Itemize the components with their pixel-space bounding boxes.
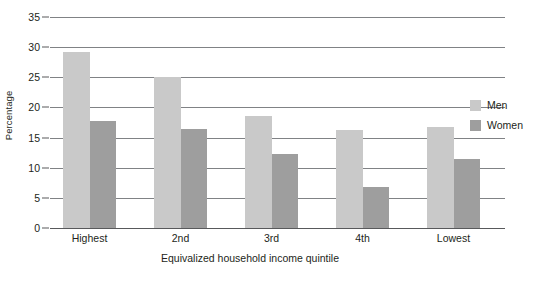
y-axis-title-text: Percentage	[4, 90, 15, 140]
bar-men-2nd	[154, 77, 181, 228]
legend-swatch-women	[470, 120, 481, 131]
y-axis-tick-mark	[42, 107, 49, 108]
x-axis-tick-label: 2nd	[172, 232, 190, 244]
y-axis-tick-label: 5	[34, 192, 40, 204]
bar-women-highest	[90, 121, 117, 228]
y-axis-tick-mark	[42, 137, 49, 138]
legend-swatch-men	[470, 100, 481, 111]
bar-men-3rd	[245, 116, 272, 228]
y-axis-tick-mark	[42, 77, 49, 78]
y-axis-tick-mark	[42, 228, 49, 229]
bar-women-4th	[363, 187, 390, 228]
x-axis-tick-label: Highest	[72, 232, 108, 244]
bars-layer	[50, 0, 505, 229]
bar-men-lowest	[427, 127, 454, 228]
bar-men-highest	[63, 52, 90, 228]
y-axis-tick-label: 35	[28, 11, 40, 23]
legend-label: Men	[487, 100, 507, 111]
x-axis-tick-label: 3rd	[264, 232, 279, 244]
bar-women-2nd	[181, 129, 208, 228]
bar-women-3rd	[272, 154, 299, 228]
legend-label: Women	[487, 120, 523, 131]
bar-women-lowest	[454, 159, 481, 228]
y-axis-tick-mark	[42, 167, 49, 168]
legend-item-women: Women	[470, 117, 542, 134]
bar-chart: Percentage 05101520253035 Highest2nd3rd4…	[0, 0, 545, 281]
plot-area	[50, 0, 505, 229]
legend-item-men: Men	[470, 97, 542, 114]
y-axis-tick-mark	[42, 47, 49, 48]
y-axis-tick-label: 0	[34, 222, 40, 234]
y-axis-tick-label: 25	[28, 71, 40, 83]
bar-men-4th	[336, 130, 363, 228]
y-axis-tick-label: 30	[28, 41, 40, 53]
x-axis-tick-label: Lowest	[437, 232, 470, 244]
x-axis-tick-labels: Highest2nd3rd4thLowest	[50, 232, 505, 250]
y-axis-tick-label: 10	[28, 162, 40, 174]
y-axis-tick-mark	[42, 197, 49, 198]
y-axis-tick-mark	[42, 17, 49, 18]
y-axis-ticks: 05101520253035	[18, 0, 50, 240]
x-axis-title: Equivalized household income quintile	[50, 252, 450, 264]
y-axis-tick-label: 15	[28, 132, 40, 144]
y-axis-tick-label: 20	[28, 101, 40, 113]
x-axis-tick-label: 4th	[355, 232, 370, 244]
y-axis-title: Percentage	[0, 0, 18, 230]
legend: MenWomen	[470, 97, 542, 137]
